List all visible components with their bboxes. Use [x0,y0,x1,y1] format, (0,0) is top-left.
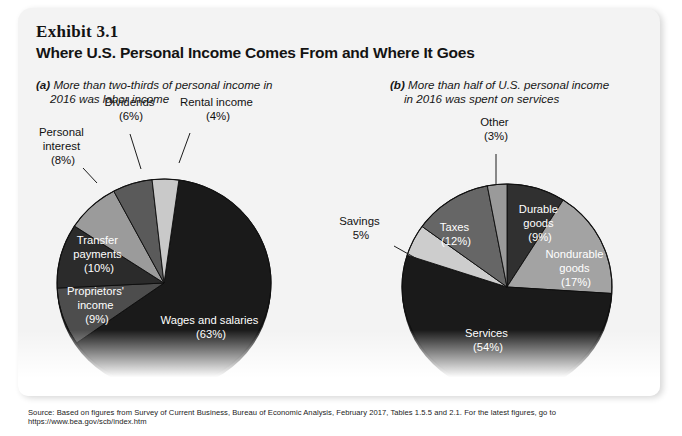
label-savings: Savings 5% [339,215,383,241]
source-note: Source: Based on figures from Survey of … [28,408,664,427]
panel-a-caption-line1: More than two-thirds of personal income … [53,78,272,91]
exhibit-title: Where U.S. Personal Income Comes From an… [36,44,475,62]
panel-b-caption-line2: in 2016 was spent on services [390,92,680,106]
pie-chart-personal-income-uses: Other (3%) Savings 5% Durable goods (9%)… [336,112,682,402]
panel-b-tag: (b) [390,78,405,91]
label-personal-interest: Personal interest (8%) [39,126,87,166]
pie-chart-personal-income-sources: Personal interest (8%) Dividends (6%) Re… [0,112,336,402]
panel-b-caption-line1: More than half of U.S. personal income [408,78,609,91]
leader-rental-income [179,133,190,163]
panel-b-caption: (b) More than half of U.S. personal inco… [390,78,680,106]
leader-personal-interest [83,168,97,183]
label-other: Other (3%) [480,116,512,142]
panel-a-tag: (a) [36,78,50,91]
exhibit-number: Exhibit 3.1 [36,22,119,42]
pie-a-slices [57,179,271,387]
leader-dividends [130,134,141,169]
